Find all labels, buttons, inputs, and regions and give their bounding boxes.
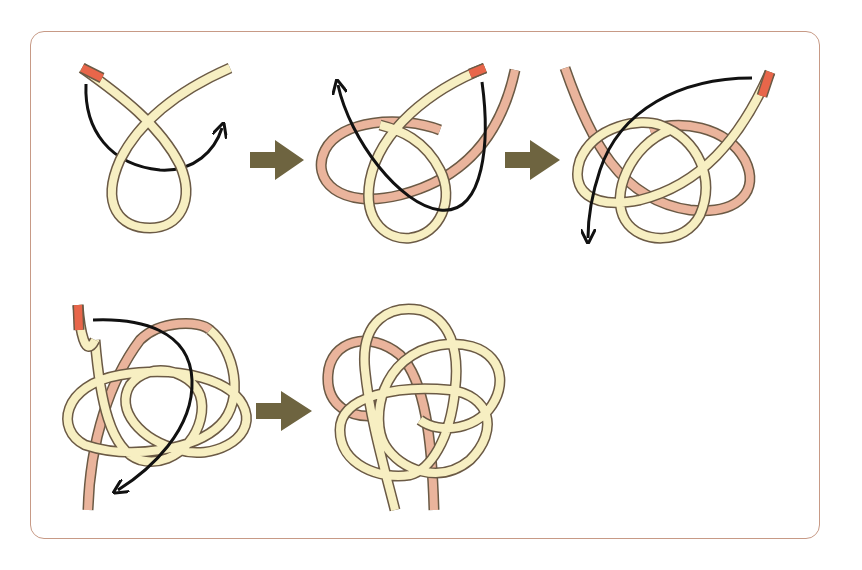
step-4 bbox=[68, 305, 247, 510]
right-arrow-icon bbox=[250, 140, 304, 180]
step-3 bbox=[565, 68, 770, 238]
step-5 bbox=[328, 309, 500, 510]
step-1 bbox=[82, 68, 230, 228]
right-arrow-icon bbox=[256, 391, 312, 431]
step-2 bbox=[321, 68, 515, 238]
right-arrow-icon bbox=[505, 140, 560, 180]
